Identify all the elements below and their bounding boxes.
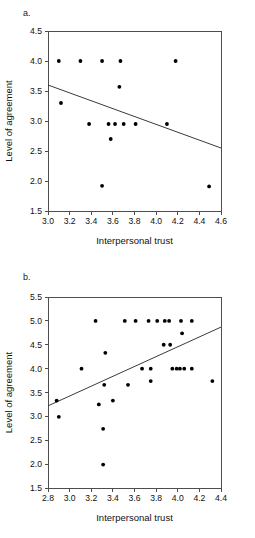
data-point [168, 343, 172, 347]
data-point [123, 319, 127, 323]
data-point [122, 122, 126, 126]
chart-panel-b: b. 2.83.03.23.43.63.84.04.24.41.52.02.53… [0, 262, 255, 538]
plot-frame [48, 297, 221, 488]
regression-line [48, 85, 221, 148]
data-point [165, 122, 169, 126]
x-tick-label: 4.6 [215, 216, 227, 226]
x-tick-label: 3.0 [64, 493, 76, 503]
y-tick-label: 4.5 [30, 340, 42, 350]
data-point [55, 399, 59, 403]
y-tick-label: 4.0 [30, 364, 42, 374]
data-point [210, 379, 214, 383]
data-point [57, 59, 61, 63]
y-tick-label: 4.0 [30, 56, 42, 66]
y-tick-label: 3.5 [30, 388, 42, 398]
x-tick-label: 3.2 [85, 493, 97, 503]
data-point [100, 59, 104, 63]
plot-frame [48, 31, 221, 211]
data-point [190, 319, 194, 323]
data-point [167, 319, 171, 323]
data-point [117, 85, 121, 89]
x-tick-label: 3.2 [64, 216, 76, 226]
scatter-plot-b: 2.83.03.23.43.63.84.04.24.41.52.02.53.03… [0, 262, 255, 538]
data-point [180, 331, 184, 335]
data-point [178, 367, 182, 371]
data-point [101, 463, 105, 467]
y-axis-title: Level of agreement [3, 80, 14, 162]
y-tick-label: 1.5 [30, 483, 42, 493]
y-tick-label: 4.5 [30, 26, 42, 36]
data-point [170, 367, 174, 371]
scatter-plot-a: 3.03.23.43.63.84.04.24.44.61.52.02.53.03… [0, 0, 255, 260]
y-tick-label: 2.0 [30, 176, 42, 186]
data-point [155, 319, 159, 323]
x-axis-title: Interpersonal trust [96, 235, 173, 246]
data-point [87, 122, 91, 126]
x-tick-label: 4.4 [193, 216, 205, 226]
data-point [57, 415, 61, 419]
data-point [182, 367, 186, 371]
x-tick-label: 3.4 [85, 216, 97, 226]
data-point [162, 343, 166, 347]
x-tick-label: 4.0 [172, 493, 184, 503]
y-tick-label: 3.5 [30, 86, 42, 96]
data-point [174, 59, 178, 63]
y-tick-label: 3.0 [30, 411, 42, 421]
data-point [179, 319, 183, 323]
x-tick-label: 2.8 [42, 493, 54, 503]
data-point [163, 319, 167, 323]
data-point [79, 59, 83, 63]
data-point [134, 319, 138, 323]
data-point [113, 122, 117, 126]
data-point [149, 367, 153, 371]
y-tick-label: 2.0 [30, 459, 42, 469]
data-point [126, 383, 130, 387]
data-point [102, 383, 106, 387]
x-tick-label: 4.4 [215, 493, 227, 503]
data-point [207, 185, 211, 189]
x-tick-label: 4.2 [172, 216, 184, 226]
x-tick-label: 3.0 [42, 216, 54, 226]
y-tick-label: 2.5 [30, 435, 42, 445]
data-point [175, 367, 179, 371]
data-point [134, 122, 138, 126]
data-point [101, 427, 105, 431]
x-axis-title: Interpersonal trust [96, 512, 173, 523]
data-point [140, 367, 144, 371]
x-tick-label: 3.4 [107, 493, 119, 503]
x-tick-label: 3.8 [150, 493, 162, 503]
data-point [59, 101, 63, 105]
data-point [149, 379, 153, 383]
chart-panel-a: a. 3.03.23.43.63.84.04.24.44.61.52.02.53… [0, 0, 255, 260]
data-point [100, 184, 104, 188]
data-point [109, 137, 113, 141]
x-tick-label: 3.6 [129, 493, 141, 503]
data-point [111, 399, 115, 403]
x-tick-label: 3.8 [129, 216, 141, 226]
data-point [97, 403, 101, 407]
x-tick-label: 4.2 [193, 493, 205, 503]
data-point [103, 351, 107, 355]
data-point [190, 367, 194, 371]
data-point [94, 319, 98, 323]
regression-line [48, 327, 221, 406]
y-tick-label: 3.0 [30, 116, 42, 126]
data-point [119, 59, 123, 63]
y-tick-label: 2.5 [30, 146, 42, 156]
data-point [147, 319, 151, 323]
y-tick-label: 5.5 [30, 292, 42, 302]
x-tick-label: 3.6 [107, 216, 119, 226]
y-axis-title: Level of agreement [3, 351, 14, 433]
data-point [80, 367, 84, 371]
y-tick-label: 1.5 [30, 206, 42, 216]
y-tick-label: 5.0 [30, 316, 42, 326]
data-point [107, 122, 111, 126]
x-tick-label: 4.0 [150, 216, 162, 226]
